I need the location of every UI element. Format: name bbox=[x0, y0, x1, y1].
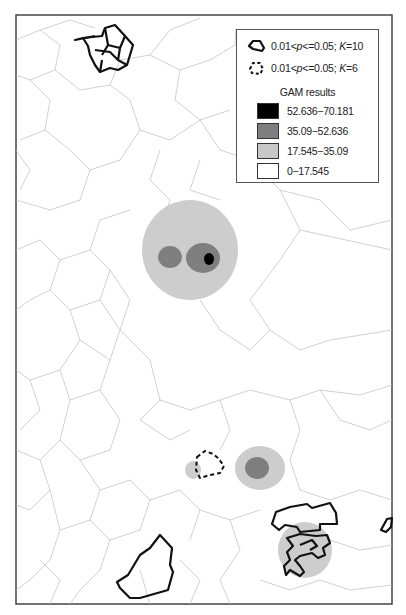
dashed-polygon-icon bbox=[245, 60, 267, 76]
legend-class-2-label: 35.09−52.636 bbox=[287, 125, 348, 137]
map-legend: 0.01<p<=0.05; K=10 0.01<p<=0.05; K=6 GAM… bbox=[236, 29, 379, 183]
legend-class-1-label: 52.636−70.181 bbox=[287, 105, 353, 117]
legend-class-3: 17.545−35.09 bbox=[257, 143, 348, 159]
legend-class-4: 0−17.545 bbox=[257, 163, 329, 179]
legend-class-2: 35.09−52.636 bbox=[257, 123, 348, 139]
legend-k10-label: 0.01<p<=0.05; K=10 bbox=[271, 40, 363, 52]
swatch-white bbox=[257, 163, 279, 179]
legend-class-1: 52.636−70.181 bbox=[257, 103, 353, 119]
swatch-light-gray bbox=[257, 143, 279, 159]
swatch-dark-gray bbox=[257, 123, 279, 139]
legend-class-4-label: 0−17.545 bbox=[287, 165, 329, 177]
legend-class-3-label: 17.545−35.09 bbox=[287, 145, 348, 157]
gam-results-title: GAM results bbox=[237, 86, 378, 98]
legend-item-k10: 0.01<p<=0.05; K=10 bbox=[237, 38, 363, 54]
swatch-black bbox=[257, 103, 279, 119]
legend-item-k6: 0.01<p<=0.05; K=6 bbox=[237, 60, 358, 76]
solid-polygon-icon bbox=[245, 38, 267, 54]
gam-cluster-central bbox=[142, 200, 238, 300]
legend-k6-label: 0.01<p<=0.05; K=6 bbox=[271, 62, 358, 74]
